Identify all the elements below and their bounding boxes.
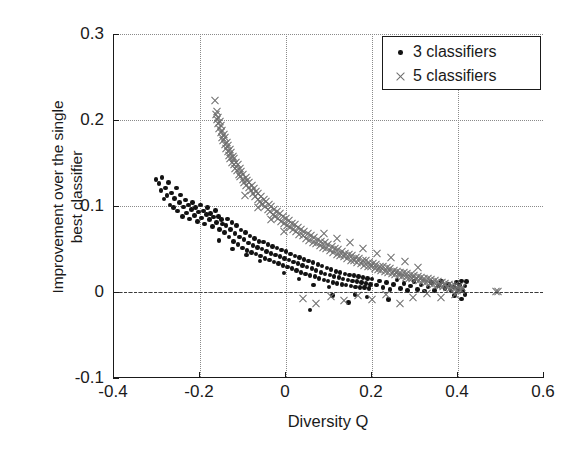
data-point-3-classifiers: [459, 297, 464, 302]
x-tick-mark: [285, 372, 286, 378]
data-point-3-classifiers: [391, 282, 396, 287]
data-point-3-classifiers: [374, 283, 379, 288]
data-point-3-classifiers: [320, 264, 325, 269]
data-point-3-classifiers: [228, 227, 233, 232]
data-point-3-classifiers: [308, 273, 313, 278]
data-point-5-classifiers: [311, 298, 321, 308]
data-point-3-classifiers: [398, 286, 403, 291]
data-point-5-classifiers: [413, 263, 423, 273]
data-point-5-classifiers: [210, 96, 220, 106]
data-point-3-classifiers: [344, 283, 349, 288]
data-point-3-classifiers: [213, 208, 218, 213]
y-tick-mark: [113, 292, 119, 293]
data-point-3-classifiers: [327, 285, 332, 290]
data-point-5-classifiers: [339, 296, 349, 306]
data-point-5-classifiers: [332, 234, 342, 244]
data-point-3-classifiers: [356, 274, 361, 279]
data-point-3-classifiers: [347, 273, 352, 278]
data-point-3-classifiers: [362, 285, 367, 290]
data-point-3-classifiers: [192, 213, 197, 218]
x-tick-mark: [543, 372, 544, 378]
data-point-3-classifiers: [353, 285, 358, 290]
data-point-3-classifiers: [350, 279, 355, 284]
x-tick-mark: [199, 372, 200, 378]
x-axis-label: Diversity Q: [113, 412, 543, 431]
data-point-3-classifiers: [365, 276, 370, 281]
legend-dot-marker-icon: [392, 45, 410, 59]
data-point-3-classifiers: [217, 238, 222, 243]
data-point-5-classifiers: [266, 215, 276, 225]
data-point-5-classifiers: [319, 229, 329, 239]
x-tick-mark: [371, 372, 372, 378]
data-point-3-classifiers: [163, 186, 168, 191]
data-point-3-classifiers: [370, 277, 375, 282]
data-point-5-classifiers: [240, 191, 250, 201]
data-point-3-classifiers: [157, 181, 162, 186]
data-point-3-classifiers: [174, 186, 179, 191]
y-tick-mark: [113, 120, 119, 121]
zero-reference-line: [114, 292, 543, 293]
data-point-3-classifiers: [169, 191, 174, 196]
y-tick-mark: [113, 206, 119, 207]
y-gridline: [114, 206, 543, 207]
data-point-3-classifiers: [244, 253, 249, 258]
legend-x-marker-icon: [392, 69, 410, 83]
data-point-3-classifiers: [222, 230, 227, 235]
y-tick-label: -0.1: [44, 368, 104, 388]
data-point-3-classifiers: [199, 216, 204, 221]
x-tick-label: 0.6: [513, 382, 573, 402]
data-point-3-classifiers: [258, 259, 263, 264]
data-point-5-classifiers: [436, 292, 446, 302]
data-point-5-classifiers: [400, 257, 410, 267]
data-point-3-classifiers: [227, 235, 232, 240]
data-point-3-classifiers: [230, 247, 235, 252]
data-point-5-classifiers: [386, 253, 396, 263]
data-point-3-classifiers: [338, 270, 343, 275]
y-tick-label: 0.2: [44, 110, 104, 130]
data-point-3-classifiers: [190, 200, 195, 205]
y-gridline: [114, 120, 543, 121]
data-point-3-classifiers: [205, 205, 210, 210]
data-point-3-classifiers: [341, 277, 346, 282]
y-gridline: [114, 34, 543, 35]
y-axis-label-container: Improvement over the single best classif…: [0, 0, 60, 390]
data-point-3-classifiers: [311, 283, 316, 288]
data-point-3-classifiers: [368, 282, 373, 287]
data-point-3-classifiers: [202, 222, 207, 227]
x-tick-label: 0.2: [341, 382, 401, 402]
data-point-3-classifiers: [172, 196, 177, 201]
y-tick-label: 0.1: [44, 196, 104, 216]
data-point-5-classifiers: [279, 227, 289, 237]
y-tick-label: 0.3: [44, 24, 104, 44]
data-point-3-classifiers: [198, 203, 203, 208]
data-point-3-classifiers: [297, 277, 302, 282]
data-point-3-classifiers: [166, 180, 171, 185]
data-point-5-classifiers: [395, 299, 405, 309]
x-tick-label: 0: [255, 382, 315, 402]
y-tick-mark: [113, 34, 119, 35]
y-tick-label: 0: [44, 282, 104, 302]
data-point-3-classifiers: [367, 286, 372, 291]
data-point-3-classifiers: [377, 279, 382, 284]
data-point-5-classifiers: [298, 294, 308, 304]
data-point-3-classifiers: [384, 280, 389, 285]
data-point-3-classifiers: [195, 219, 200, 224]
data-point-3-classifiers: [323, 272, 328, 277]
data-point-3-classifiers: [326, 279, 331, 284]
data-point-3-classifiers: [183, 198, 188, 203]
data-point-5-classifiers: [345, 238, 355, 248]
data-point-5-classifiers: [358, 244, 368, 254]
data-point-3-classifiers: [317, 276, 322, 281]
data-point-3-classifiers: [308, 308, 313, 313]
data-point-3-classifiers: [187, 217, 192, 222]
data-point-3-classifiers: [359, 280, 364, 285]
data-point-5-classifiers: [253, 203, 263, 213]
x-tick-mark: [457, 372, 458, 378]
data-point-3-classifiers: [305, 265, 310, 270]
data-point-5-classifiers: [422, 289, 432, 299]
data-point-3-classifiers: [210, 224, 215, 229]
data-point-3-classifiers: [184, 211, 189, 216]
x-tick-label: -0.2: [169, 382, 229, 402]
data-point-3-classifiers: [311, 260, 316, 265]
data-point-5-classifiers: [367, 295, 377, 305]
